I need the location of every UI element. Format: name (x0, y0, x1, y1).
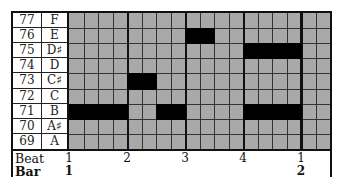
note-name: A♯ (42, 119, 69, 134)
note-name: C♯ (42, 73, 69, 88)
grid-step-line (229, 13, 230, 149)
midi-number: 74 (13, 58, 42, 73)
note-name: C (42, 89, 69, 104)
midi-number: 71 (13, 104, 42, 119)
piano-roll-rows: 77 F 76 E 75 D♯ 74 D 73 C♯ 72 C 71 B 70 (13, 13, 330, 149)
note-block-71[interactable] (69, 104, 128, 120)
midi-number: 72 (13, 89, 42, 104)
beat-number: 3 (181, 151, 189, 165)
note-name: F (42, 13, 69, 28)
grid-step-line (272, 13, 273, 149)
grid-step-line (171, 13, 172, 149)
note-block-71[interactable] (243, 104, 302, 120)
midi-number: 77 (13, 13, 42, 28)
bar-line (300, 13, 303, 149)
grid-step-line (84, 13, 85, 149)
note-name: A (42, 134, 69, 149)
midi-number: 73 (13, 73, 42, 88)
midi-number: 69 (13, 134, 42, 149)
grid-step-line (287, 13, 288, 149)
note-name: D♯ (42, 43, 69, 58)
beat-line (243, 13, 245, 149)
grid-step-line (113, 13, 114, 149)
bar-number: 2 (297, 164, 305, 178)
note-block-75[interactable] (243, 43, 302, 59)
bar-number: 1 (65, 164, 73, 178)
note-name: D (42, 58, 69, 73)
note-block-73[interactable] (127, 73, 157, 89)
note-block-71[interactable] (156, 104, 186, 120)
note-name: B (42, 104, 69, 119)
beat-number: 4 (239, 151, 247, 165)
beat-number: 1 (297, 151, 305, 165)
beat-number: 2 (123, 151, 131, 165)
beat-number: 1 (65, 151, 73, 165)
note-block-76[interactable] (185, 28, 215, 44)
grid-step-line (258, 13, 259, 149)
piano-roll: 77 F 76 E 75 D♯ 74 D 73 C♯ 72 C 71 B 70 (11, 11, 332, 177)
midi-number: 76 (13, 28, 42, 43)
midi-number: 75 (13, 43, 42, 58)
midi-number: 70 (13, 119, 42, 134)
bar-label: Bar (15, 164, 40, 179)
grid-step-line (98, 13, 99, 149)
grid-step-line (316, 13, 317, 149)
note-grid[interactable] (69, 13, 330, 149)
timeline-footer: Beat Bar 1234112 (13, 149, 330, 177)
note-name: E (42, 28, 69, 43)
